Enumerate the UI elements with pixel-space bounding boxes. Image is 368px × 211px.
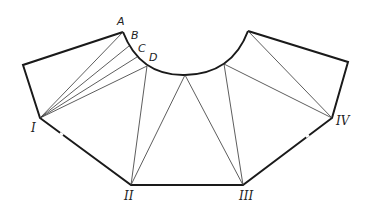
label-IV: IV (335, 114, 351, 128)
label-II: II (123, 189, 134, 203)
label-III: III (238, 189, 253, 203)
triangulation-lines (40, 31, 332, 185)
outline (23, 31, 348, 185)
line-I-C (40, 57, 137, 118)
line-II-D (131, 66, 147, 185)
line-I-B (40, 46, 129, 118)
label-I: I (30, 121, 36, 135)
label-D: D (149, 51, 157, 64)
corner-labels: I II III IV (30, 114, 351, 203)
line-I-D (40, 66, 147, 118)
development-diagram: A B C D I II III IV (0, 0, 368, 211)
line-IV-arc-right (224, 64, 332, 118)
edge-marks (60, 133, 309, 137)
edge-gap-left (60, 133, 63, 135)
edge-gap-right (306, 135, 309, 137)
outer-boundary-left (23, 31, 348, 185)
line-II-arc-bottom (131, 75, 185, 185)
label-C: C (138, 42, 146, 55)
label-B: B (131, 29, 139, 42)
label-A: A (116, 15, 125, 28)
